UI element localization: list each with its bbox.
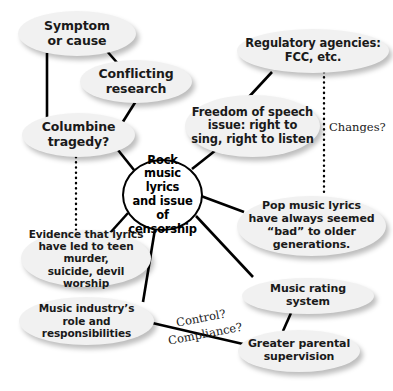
node-label: Greater parental supervision: [242, 338, 356, 364]
node-label: Symptom or cause: [38, 19, 116, 49]
node-label: Pop music lyrics have always seemed “bad…: [242, 200, 380, 252]
node-conflicting-research[interactable]: Conflicting research: [80, 60, 192, 103]
node-music-industry-role[interactable]: Music industry’s role and responsibiliti…: [19, 297, 154, 345]
node-center-rock-music-lyrics-censorship[interactable]: Rock music lyrics and issue of censorshi…: [122, 159, 203, 231]
node-freedom-of-speech[interactable]: Freedom of speech issue: right to sing, …: [185, 95, 320, 157]
edge-label-text: Changes?: [329, 120, 386, 134]
node-label: Music industry’s role and responsibiliti…: [19, 302, 154, 339]
center-node-label: Rock music lyrics and issue of censorshi…: [122, 154, 202, 237]
node-label: Music rating system: [242, 283, 374, 309]
concept-map-canvas: Symptom or cause Conflicting research Re…: [0, 0, 393, 391]
node-label: Freedom of speech issue: right to sing, …: [185, 106, 320, 147]
node-evidence-that-lyrics[interactable]: Evidence that lyrics have led to teen mu…: [21, 230, 151, 287]
node-label: Columbine tragedy?: [36, 120, 122, 150]
edge-rating-to-supervision: [283, 313, 291, 331]
node-greater-parental-supervision[interactable]: Greater parental supervision: [238, 330, 360, 372]
edge-center-to-pop: [201, 196, 244, 212]
node-regulatory-agencies[interactable]: Regulatory agencies: FCC, etc.: [237, 29, 389, 73]
node-symptom-or-cause[interactable]: Symptom or cause: [18, 11, 136, 56]
node-label: Evidence that lyrics have led to teen mu…: [21, 228, 151, 290]
node-columbine-tragedy[interactable]: Columbine tragedy?: [22, 113, 135, 157]
node-pop-music-lyrics[interactable]: Pop music lyrics have always seemed “bad…: [237, 196, 386, 256]
node-label: Regulatory agencies: FCC, etc.: [239, 37, 386, 64]
node-music-rating-system[interactable]: Music rating system: [242, 278, 374, 314]
edge-label-changes: Changes?: [329, 120, 386, 134]
node-label: Conflicting research: [92, 67, 179, 97]
